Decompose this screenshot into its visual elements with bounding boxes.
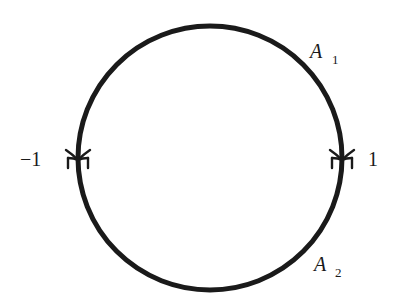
label-arc-a1-subscript: 1 [332,52,339,67]
label-plus-one: 1 [368,148,378,170]
label-arc-a2: A [312,253,327,275]
label-minus-one: −1 [20,148,41,170]
label-arc-a1: A [308,40,323,62]
contour-diagram: −1 1 A 1 A 2 [0,0,399,300]
label-arc-a2-subscript: 2 [335,265,342,280]
unit-circle [78,26,342,290]
